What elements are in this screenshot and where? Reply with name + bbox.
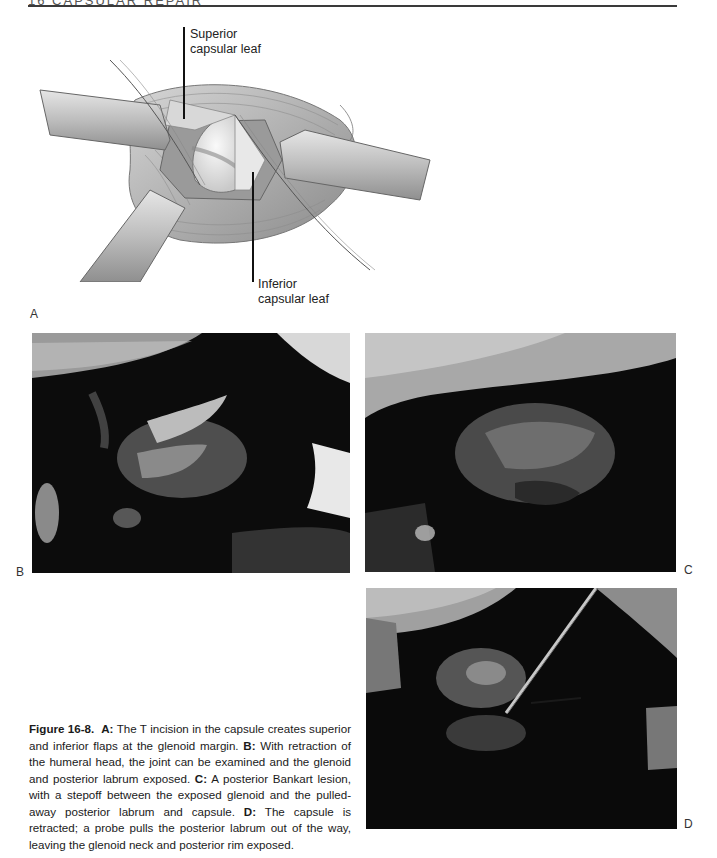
superior-capsular-leaf-label: Superior capsular leaf: [190, 27, 261, 57]
header-rule: [28, 5, 677, 7]
surgical-photo-b: [32, 333, 350, 573]
figure-panel-a-illustration: [20, 60, 440, 282]
panel-letter-d: D: [684, 817, 693, 831]
figure-caption: Figure 16-8. A: The T incision in the ca…: [29, 721, 351, 853]
surgical-photo-c: [365, 333, 676, 572]
superior-leader-line: [183, 27, 185, 119]
shoulder-surgery-illustration: [20, 60, 440, 282]
figure-panel-b-photo: [32, 333, 350, 573]
caption-a-label: A:: [101, 722, 113, 735]
inferior-capsular-leaf-label: Inferior capsular leaf: [258, 277, 329, 307]
caption-d-label: D:: [244, 805, 256, 818]
caption-b-label: B:: [243, 739, 255, 752]
panel-letter-c: C: [684, 563, 693, 577]
figure-panel-d-photo: [366, 588, 677, 829]
inferior-leader-line: [252, 172, 254, 282]
figure-panel-c-photo: [365, 333, 676, 572]
caption-figure-label: Figure 16-8.: [29, 722, 94, 735]
panel-letter-a: A: [30, 307, 38, 321]
caption-c-label: C:: [195, 772, 207, 785]
surgical-photo-d: [366, 588, 677, 829]
panel-letter-b: B: [16, 565, 24, 579]
